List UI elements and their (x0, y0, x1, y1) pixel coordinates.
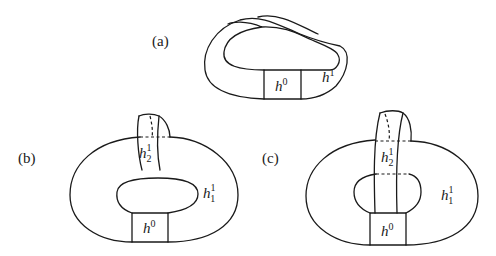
panel-a-inner-boundary (224, 22, 339, 70)
panel-b-band-hidden-edge (140, 116, 170, 137)
panel-b-inner-hole (117, 178, 198, 213)
panel-b-h0-label: h0 (143, 218, 156, 236)
panel-a-h0-label: h0 (275, 76, 288, 94)
panel-a-h1-label: h1 (322, 67, 335, 85)
panel-a: (a) h0 h1 (152, 16, 347, 99)
panel-c-band-left (374, 113, 380, 213)
panel-c-h0-label: h0 (381, 221, 394, 239)
panel-b-band-top-back (139, 114, 170, 137)
panel-b-band-right (158, 116, 160, 170)
panel-b: (b) h12 h11 h0 (18, 114, 238, 242)
panel-c-label: (c) (262, 150, 279, 167)
panel-c-band-right (397, 113, 403, 213)
panel-c-h2-label: h12 (381, 146, 394, 168)
panel-a-twist (258, 16, 318, 34)
panel-c-band-top-back (380, 111, 411, 141)
panel-b-label: (b) (18, 150, 36, 167)
handle-decomposition-diagram: (a) h0 h1 (b) h12 h11 h0 (c) (0, 0, 496, 256)
panel-b-h2-label: h12 (139, 142, 152, 164)
panel-b-band-left (138, 116, 142, 170)
panel-c-h1-label: h11 (441, 184, 454, 206)
panel-a-label: (a) (152, 33, 169, 50)
panel-c-inner-hole (354, 174, 421, 213)
panel-b-h1-label: h11 (203, 182, 216, 204)
panel-c: (c) h12 h11 h0 (262, 111, 478, 245)
